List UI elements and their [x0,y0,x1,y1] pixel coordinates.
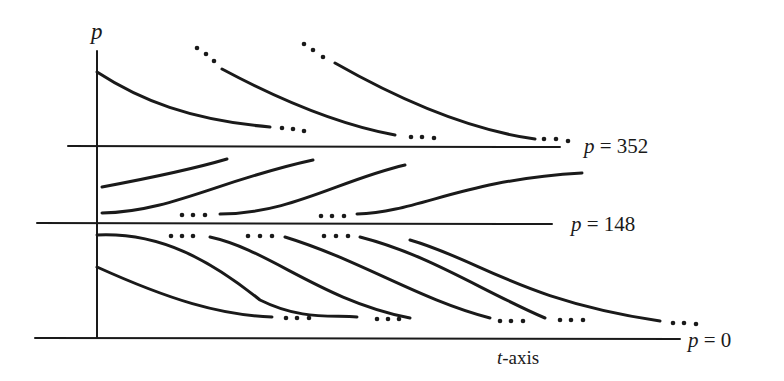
eq-sign: = [582,212,604,236]
equilibrium-label-352: p = 352 [584,136,648,157]
t-axis-line [35,338,680,339]
direction-diagram: p p = 352 p = 148 p = 0 t-axis [0,0,784,381]
p-axis-label: p [91,20,103,43]
eq-var: p [571,212,582,236]
eq-value: 0 [721,328,732,352]
eq-sign: = [595,134,617,158]
ellipsis-dots [169,42,699,327]
curves-between-148-352 [102,159,582,214]
eq-value: 148 [604,212,636,236]
t-axis-label: t-axis [497,348,539,367]
eq-var: p [688,328,699,352]
curves-above-352 [97,63,535,139]
eq-sign: = [699,328,721,352]
t-axis-suffix: -axis [502,347,539,368]
eq-var: p [584,134,595,158]
curves-between-0-148 [97,235,660,321]
p-axis-label-text: p [91,19,103,44]
equilibrium-label-0: p = 0 [688,330,731,351]
equilibrium-line-148 [37,223,552,224]
diagram-canvas [0,0,784,381]
eq-value: 352 [617,134,649,158]
equilibrium-label-148: p = 148 [571,214,635,235]
equilibrium-line-352 [68,146,560,147]
